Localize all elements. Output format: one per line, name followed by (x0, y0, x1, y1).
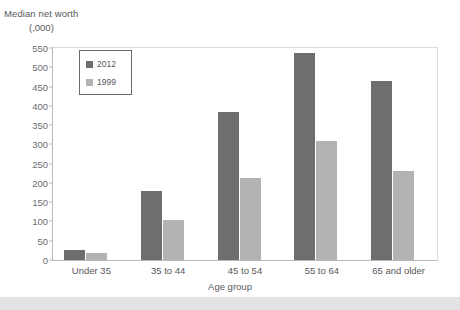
x-tick-label: 35 to 44 (151, 265, 185, 276)
y-tick-label: 250 (32, 158, 48, 169)
y-tick-label: 0 (43, 255, 48, 266)
x-tick-label: 45 to 54 (228, 265, 262, 276)
bar-2012 (294, 53, 315, 260)
legend-swatch-2012-icon (86, 61, 93, 68)
y-tick-label: 300 (32, 139, 48, 150)
bar-1999 (163, 220, 184, 260)
legend-item-2012: 2012 (86, 59, 116, 69)
x-tick-label: 65 and older (372, 265, 425, 276)
bar-2012 (218, 112, 239, 260)
x-tick-label: Under 35 (72, 265, 111, 276)
y-axis-unit-label: (,000) (29, 22, 54, 33)
y-tick-label: 100 (32, 216, 48, 227)
bar-1999 (240, 178, 261, 260)
y-tick-label: 200 (32, 177, 48, 188)
legend-item-1999: 1999 (86, 77, 116, 87)
bar-2012 (371, 81, 392, 260)
y-tick-label: 550 (32, 43, 48, 54)
y-axis-title: Median net worth (4, 8, 78, 19)
bar-group (207, 48, 284, 260)
y-tick-label: 400 (32, 100, 48, 111)
bar-group (130, 48, 207, 260)
legend-label-2012: 2012 (97, 59, 116, 69)
y-tick-label: 50 (37, 235, 48, 246)
y-tick-label: 500 (32, 62, 48, 73)
x-tick-label: 55 to 64 (305, 265, 339, 276)
legend-label-1999: 1999 (97, 77, 116, 87)
y-tick-label: 450 (32, 81, 48, 92)
legend-swatch-1999-icon (86, 79, 93, 86)
bar-1999 (316, 141, 337, 260)
x-axis-title: Age group (0, 281, 460, 292)
bar-group (283, 48, 360, 260)
y-tick-label: 350 (32, 120, 48, 131)
bar-2012 (64, 250, 85, 260)
bar-1999 (86, 253, 107, 260)
bar-chart-figure: Median net worth (,000) 5505004504003503… (0, 0, 460, 310)
bar-2012 (141, 191, 162, 260)
bottom-decorative-band (0, 297, 460, 310)
y-tick-label: 150 (32, 197, 48, 208)
chart-legend: 2012 1999 (79, 50, 132, 95)
bar-group (360, 48, 437, 260)
bar-1999 (393, 171, 414, 260)
